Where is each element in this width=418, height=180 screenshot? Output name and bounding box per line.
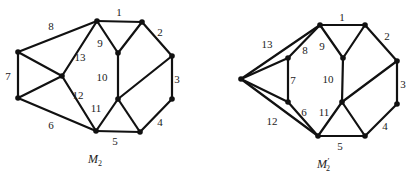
vertex-J: [340, 55, 346, 61]
edge-label: 9: [97, 37, 103, 49]
edge-H-A: [18, 21, 97, 52]
vertex-E: [137, 129, 143, 135]
vertex-I: [59, 73, 65, 79]
edge-label: 2: [157, 26, 163, 38]
edge-label: 1: [339, 11, 345, 23]
edge-label: 7: [5, 70, 11, 82]
edge-label: 3: [174, 73, 180, 85]
edge-F-E: [96, 131, 140, 132]
caption-subscript: 2: [326, 164, 330, 173]
graph-m2: 12345678910111213 M2: [5, 6, 180, 168]
vertex-G: [15, 95, 21, 101]
vertex-C: [394, 58, 400, 64]
graph-m2-prime-caption: M′2: [316, 156, 330, 173]
edge-label: 4: [382, 120, 388, 132]
vertex-Q: [285, 55, 291, 61]
edge-I-A: [62, 21, 97, 76]
caption-subscript: 2: [98, 159, 102, 168]
vertex-K: [115, 96, 121, 102]
vertex-F: [315, 133, 321, 139]
edge-label: 12: [267, 115, 278, 127]
edge-label: 11: [319, 106, 330, 118]
vertex-B: [362, 22, 368, 28]
edge-A-B: [97, 21, 142, 22]
edge-label: 13: [262, 38, 274, 50]
vertex-B: [139, 19, 145, 25]
edge-label: 3: [400, 78, 406, 90]
vertex-K: [339, 99, 345, 105]
vertex-C: [169, 53, 175, 59]
edge-K-E: [118, 99, 140, 132]
edge-J-K: [342, 58, 343, 102]
edge-label: 9: [319, 40, 325, 52]
edge-D-E: [140, 99, 172, 132]
edge-label: 11: [91, 102, 102, 114]
graph-m2-nodes: [15, 18, 175, 135]
edge-label: 2: [384, 30, 390, 42]
edge-label: 10: [323, 73, 335, 85]
edge-label: 6: [48, 119, 54, 131]
graph-figure-canvas: 12345678910111213 M2 12345678910111213 M…: [0, 0, 418, 180]
edge-K-E: [342, 102, 365, 136]
vertex-H: [15, 49, 21, 55]
edge-K-C: [342, 61, 397, 102]
edge-label: 7: [290, 74, 296, 86]
edge-label: 10: [97, 71, 109, 83]
edge-label: 1: [116, 6, 122, 18]
graph-m2-prime: 12345678910111213 M′2: [238, 11, 406, 173]
vertex-A: [317, 22, 323, 28]
edge-B-C: [365, 25, 397, 61]
edge-label: 13: [75, 51, 87, 63]
edge-D-E: [365, 104, 397, 136]
edge-label: 4: [157, 116, 163, 128]
edge-G-F: [18, 98, 96, 131]
edge-J-B: [343, 25, 365, 58]
edge-label: 6: [301, 106, 307, 118]
graph-m2-prime-edge-labels: 12345678910111213: [262, 11, 407, 152]
edge-label: 8: [48, 20, 54, 32]
edge-label: 8: [302, 44, 308, 56]
vertex-D: [169, 96, 175, 102]
edge-P-A: [241, 25, 320, 79]
graph-m2-edges: [18, 21, 172, 132]
edge-G-I: [18, 76, 62, 98]
vertex-R: [285, 99, 291, 105]
edge-label: 12: [73, 89, 84, 101]
graph-m2-caption: M2: [87, 152, 102, 168]
vertex-F: [93, 128, 99, 134]
edge-P-R: [241, 79, 288, 102]
edge-P-Q: [241, 58, 288, 79]
vertex-E: [362, 133, 368, 139]
edge-K-C: [118, 56, 172, 99]
edge-label: 5: [112, 135, 118, 147]
vertex-P: [238, 76, 244, 82]
edge-J-B: [118, 22, 142, 53]
edge-label: 5: [337, 140, 343, 152]
vertex-A: [94, 18, 100, 24]
vertex-D: [394, 101, 400, 107]
vertex-J: [115, 50, 121, 56]
edge-H-I: [18, 52, 62, 76]
